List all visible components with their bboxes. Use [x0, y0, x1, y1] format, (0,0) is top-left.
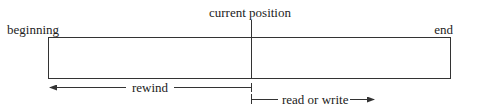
file-position-diagram: current position beginning end rewind re… — [0, 0, 482, 112]
read-or-write-label: read or write — [282, 92, 349, 107]
file-rectangle — [49, 38, 451, 79]
rewind-label: rewind — [132, 80, 169, 95]
current-position-label: current position — [209, 5, 291, 20]
end-label: end — [434, 22, 453, 37]
beginning-label: beginning — [7, 22, 59, 37]
